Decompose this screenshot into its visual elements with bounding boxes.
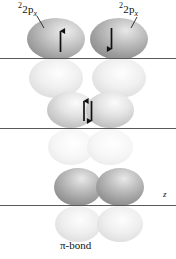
pi-bond-left-lower-lobe — [55, 206, 101, 242]
orbital-right-lower-lobe — [92, 58, 146, 98]
row-overlapping-orbitals — [0, 92, 176, 165]
row-separated-orbitals — [0, 16, 176, 98]
orbital-left-upper-lobe — [27, 18, 85, 60]
orbital-label-right: 22px — [119, 4, 138, 15]
orbital-label-left-base: 2p — [22, 3, 33, 15]
orbital-label-right-subscript: x — [135, 9, 139, 18]
overlap-right-upper-lobe — [86, 92, 134, 128]
pi-bond-caption: π-bond — [60, 240, 91, 251]
row-pi-bond — [0, 168, 176, 242]
z-axis-label: z — [163, 190, 167, 199]
pi-bond-right-lower-lobe — [97, 206, 143, 242]
pi-bond-right-upper-lobe — [96, 168, 144, 206]
orbital-label-left-subscript: x — [34, 9, 38, 18]
orbital-label-right-base: 2p — [123, 3, 134, 15]
orbital-label-left: 22px — [18, 4, 37, 15]
pi-bond-left-upper-lobe — [54, 168, 102, 206]
orbital-diagram-svg — [0, 0, 176, 259]
overlap-right-lower-lobe — [87, 129, 133, 165]
orbital-left-lower-lobe — [29, 58, 83, 98]
pi-bond-diagram: 22px 22px z π-bond — [0, 0, 176, 259]
orbital-right-upper-lobe — [90, 18, 148, 60]
